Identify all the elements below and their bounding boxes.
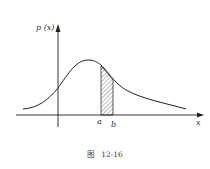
y-axis-arrow-icon [56,24,61,32]
density-figure: p (x) x a b 图 12-16 [0,0,210,169]
bound-b-label: b [111,120,116,129]
bound-a-label: a [97,117,102,126]
x-axis-arrow-icon [197,113,204,118]
x-axis-label: x [196,118,201,127]
shaded-area-a-b [101,66,113,115]
y-axis-label: p (x) [36,23,54,32]
figure-caption: 图 12-16 [87,150,123,159]
